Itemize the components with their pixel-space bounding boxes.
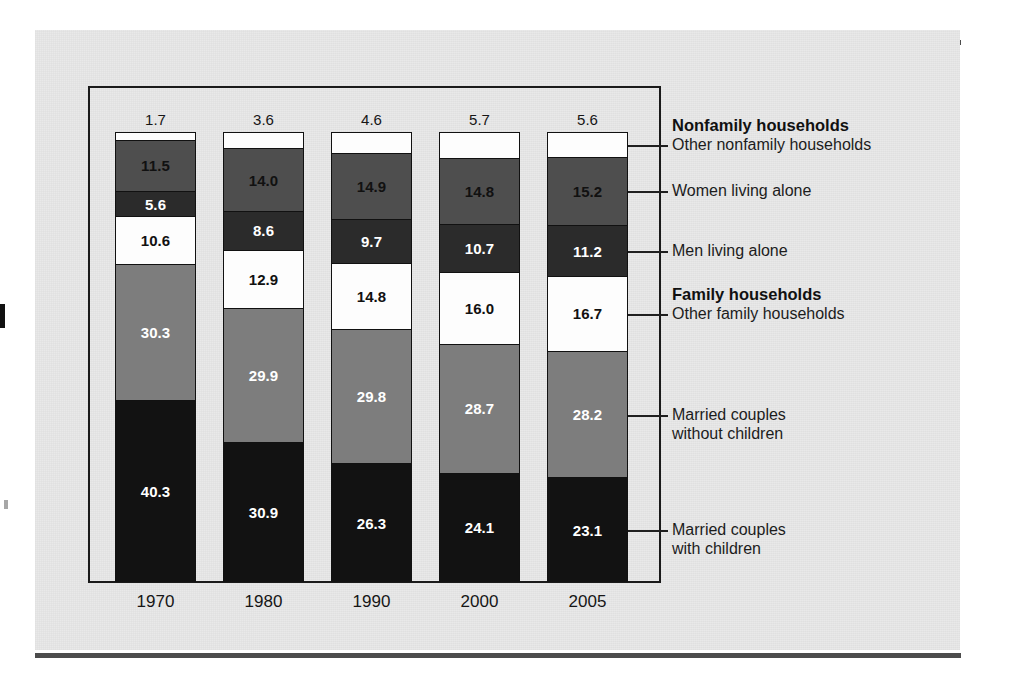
bar-group-1980[interactable]: 3.630.929.912.98.614.0 [223, 132, 304, 582]
stacked-bar[interactable]: 23.128.216.711.215.2 [547, 132, 628, 582]
bar-segment[interactable]: 14.9 [332, 154, 411, 221]
bar-group-2000[interactable]: 5.724.128.716.010.714.8 [439, 132, 520, 582]
legend-group-heading: Family households [672, 285, 845, 304]
bar-segment[interactable]: 10.7 [440, 225, 519, 273]
legend-item[interactable]: Married coupleswithout children [672, 405, 786, 443]
legend-label: Women living alone [672, 181, 811, 200]
segment-value-label: 14.8 [465, 184, 495, 199]
legend-item[interactable]: Married coupleswith children [672, 520, 786, 558]
scan-artifact-left-block [0, 304, 5, 328]
segment-value-label: 30.9 [249, 505, 279, 520]
segment-value-label: 9.7 [361, 234, 382, 249]
legend-item[interactable]: Nonfamily householdsOther nonfamily hous… [672, 116, 871, 155]
segment-value-label: 14.9 [357, 179, 387, 194]
segment-value-label: 5.6 [145, 197, 166, 212]
stacked-bar[interactable]: 24.128.716.010.714.8 [439, 132, 520, 582]
segment-value-label: 29.8 [357, 389, 387, 404]
bar-group-1970[interactable]: 1.740.330.310.65.611.5 [115, 132, 196, 582]
legend-label-line1: Married couples [672, 520, 786, 539]
bar-segment[interactable]: 10.6 [116, 217, 195, 265]
legend-group-heading: Nonfamily households [672, 116, 871, 135]
bar-segment[interactable]: 8.6 [224, 212, 303, 251]
bar-segment[interactable]: 14.8 [332, 264, 411, 330]
segment-value-label: 28.7 [465, 401, 495, 416]
segment-value-label: 28.2 [573, 407, 603, 422]
bar-segment[interactable]: 29.9 [224, 309, 303, 443]
segment-value-label: 16.0 [465, 301, 495, 316]
bar-top-value-label: 1.7 [115, 111, 196, 128]
stacked-bar[interactable]: 40.330.310.65.611.5 [115, 132, 196, 582]
bar-segment[interactable]: 5.6 [116, 192, 195, 217]
bar-segment[interactable]: 11.2 [548, 226, 627, 276]
segment-value-label: 24.1 [465, 520, 495, 535]
bar-group-1990[interactable]: 4.626.329.814.89.714.9 [331, 132, 412, 582]
bar-segment[interactable]: 14.0 [224, 149, 303, 212]
segment-value-label: 11.2 [573, 244, 602, 259]
segment-value-label: 14.8 [357, 289, 387, 304]
bar-segment[interactable] [332, 133, 411, 154]
bar-segment[interactable]: 29.8 [332, 330, 411, 464]
bar-segment[interactable]: 9.7 [332, 220, 411, 264]
segment-value-label: 15.2 [573, 184, 603, 199]
stacked-bar[interactable]: 26.329.814.89.714.9 [331, 132, 412, 582]
bar-group-2005[interactable]: 5.623.128.216.711.215.2 [547, 132, 628, 582]
bar-segment[interactable] [224, 133, 303, 149]
bar-top-value-label: 3.6 [223, 111, 304, 128]
legend-label-line2: without children [672, 424, 786, 443]
bar-segment[interactable]: 26.3 [332, 464, 411, 582]
segment-value-label: 10.7 [465, 241, 495, 256]
figure-rule-bottom [35, 653, 961, 658]
scan-artifact-left-speck [4, 500, 8, 509]
bar-segment[interactable]: 15.2 [548, 158, 627, 226]
legend-item[interactable]: Men living alone [672, 241, 788, 260]
bar-segment[interactable]: 11.5 [116, 141, 195, 193]
legend-label: Other nonfamily households [672, 135, 871, 154]
bar-segment[interactable]: 40.3 [116, 401, 195, 582]
bar-segment[interactable]: 16.7 [548, 277, 627, 352]
bar-top-value-label: 4.6 [331, 111, 412, 128]
segment-value-label: 40.3 [141, 484, 171, 499]
plot-area: 1.740.330.310.65.611.53.630.929.912.98.6… [88, 86, 661, 583]
bar-segment[interactable] [116, 133, 195, 141]
bar-top-value-label: 5.6 [547, 111, 628, 128]
stacked-bar[interactable]: 30.929.912.98.614.0 [223, 132, 304, 582]
segment-value-label: 29.9 [249, 368, 279, 383]
legend-label-line1: Married couples [672, 405, 786, 424]
bar-segment[interactable]: 23.1 [548, 478, 627, 582]
segment-value-label: 8.6 [253, 223, 274, 238]
legend-label: Other family households [672, 304, 845, 323]
legend-item[interactable]: Family householdsOther family households [672, 285, 845, 324]
segment-value-label: 30.3 [141, 325, 171, 340]
segment-value-label: 11.5 [141, 158, 170, 173]
bar-segment[interactable]: 30.9 [224, 443, 303, 582]
segment-value-label: 26.3 [357, 516, 387, 531]
bar-segment[interactable] [440, 133, 519, 159]
bar-segment[interactable]: 12.9 [224, 251, 303, 309]
legend-item[interactable]: Women living alone [672, 181, 811, 200]
legend-label-line2: with children [672, 539, 786, 558]
segment-value-label: 23.1 [573, 523, 603, 538]
bar-segment[interactable]: 14.8 [440, 159, 519, 225]
segment-value-label: 16.7 [573, 306, 603, 321]
bar-top-value-label: 5.7 [439, 111, 520, 128]
bar-segment[interactable]: 30.3 [116, 265, 195, 401]
segment-value-label: 14.0 [249, 173, 279, 188]
legend-label: Men living alone [672, 241, 788, 260]
bar-segment[interactable]: 28.7 [440, 345, 519, 474]
segment-value-label: 10.6 [141, 233, 171, 248]
segment-value-label: 12.9 [249, 272, 279, 287]
bar-segment[interactable]: 16.0 [440, 273, 519, 345]
bar-segment[interactable]: 28.2 [548, 352, 627, 479]
bar-segment[interactable] [548, 133, 627, 158]
bar-segment[interactable]: 24.1 [440, 474, 519, 582]
